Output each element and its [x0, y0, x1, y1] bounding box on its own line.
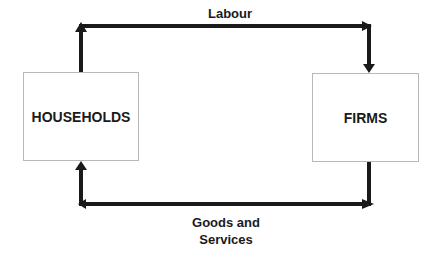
goods-text: Goods and [180, 214, 272, 231]
labour-label: Labour [200, 5, 260, 22]
households-label: HOUSEHOLDS [32, 109, 131, 125]
arrow-down-icon [363, 64, 375, 73]
firms-box: FIRMS [312, 73, 419, 162]
households-box: HOUSEHOLDS [23, 72, 139, 161]
goods-services-flow-line [81, 162, 369, 204]
services-text: Services [180, 231, 272, 248]
labour-flow-line [81, 26, 369, 72]
arrow-up-icon [75, 161, 87, 170]
firms-label: FIRMS [344, 110, 388, 126]
labour-text: Labour [208, 6, 252, 21]
goods-services-label: Goods and Services [180, 214, 272, 248]
